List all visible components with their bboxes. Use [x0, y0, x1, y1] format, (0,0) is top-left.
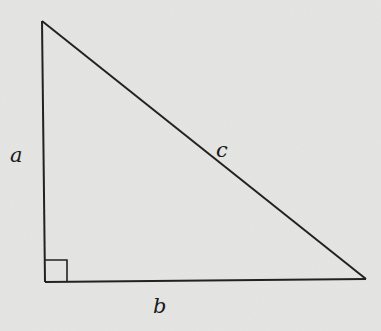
label-b: b — [153, 294, 166, 318]
label-c: c — [216, 138, 228, 162]
label-a: a — [10, 143, 23, 167]
right-triangle-diagram: a c b — [0, 0, 381, 331]
